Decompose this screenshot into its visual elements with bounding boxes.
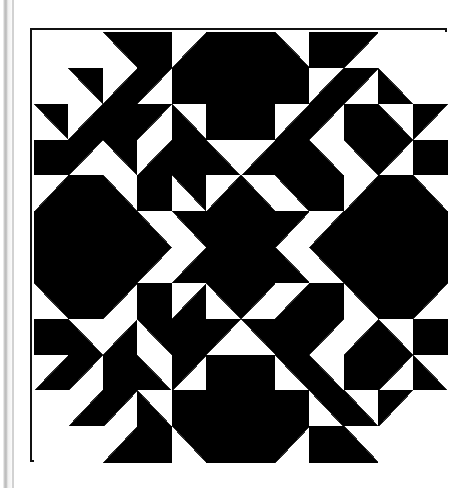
quilt-cell-r3-c10 — [378, 140, 413, 176]
quilt-cell-r7-c1 — [68, 283, 103, 319]
quilt-cell-r9-c6 — [241, 355, 276, 391]
quilt-cell-r3-c9 — [344, 140, 379, 176]
quilt-block-frame — [30, 28, 447, 462]
quilt-cell-r8-c2 — [103, 319, 138, 355]
quilt-cell-r1-c7 — [275, 68, 310, 104]
quilt-cell-r11-c10 — [378, 426, 413, 462]
quilt-cell-r10-c9 — [344, 390, 379, 426]
quilt-cell-r5-c3 — [137, 211, 172, 247]
quilt-cell-r7-c9 — [344, 283, 379, 319]
quilt-cell-r11-c4 — [172, 426, 207, 462]
quilt-cell-r3-c11 — [413, 140, 448, 176]
quilt-cell-r1-c6 — [241, 68, 276, 104]
quilt-cell-r8-c6 — [241, 319, 276, 355]
quilt-cell-r6-c11 — [413, 247, 448, 283]
quilt-cell-r5-c5 — [206, 211, 241, 247]
quilt-cell-r3-c5 — [206, 140, 241, 176]
quilt-cell-r6-c4 — [172, 247, 207, 283]
quilt-cell-r8-c10 — [378, 319, 413, 355]
quilt-cell-r5-c8 — [309, 211, 344, 247]
quilt-cell-r11-c0 — [34, 426, 69, 462]
quilt-cell-r6-c8 — [309, 247, 344, 283]
quilt-cell-r11-c2 — [103, 426, 138, 462]
quilt-cell-r7-c5 — [206, 283, 241, 319]
quilt-cell-r1-c5 — [206, 68, 241, 104]
quilt-cell-r6-c10 — [378, 247, 413, 283]
quilt-cell-r2-c3 — [137, 104, 172, 140]
quilt-cell-r8-c3 — [137, 319, 172, 355]
quilt-cell-r1-c9 — [344, 68, 379, 104]
quilt-cell-r4-c3 — [137, 175, 172, 211]
quilt-cell-r11-c3 — [137, 426, 172, 462]
quilt-cell-r5-c10 — [378, 211, 413, 247]
quilt-cell-r9-c0 — [34, 355, 69, 391]
quilt-cell-r2-c2 — [103, 104, 138, 140]
quilt-cell-r1-c4 — [172, 68, 207, 104]
quilt-cell-r6-c9 — [344, 247, 379, 283]
quilt-cell-r6-c2 — [103, 247, 138, 283]
quilt-cell-r9-c11 — [413, 355, 448, 391]
quilt-cell-r10-c11 — [413, 390, 448, 426]
quilt-cell-r3-c6 — [241, 140, 276, 176]
quilt-cell-r5-c11 — [413, 211, 448, 247]
quilt-cell-r5-c1 — [68, 211, 103, 247]
quilt-cell-r5-c9 — [344, 211, 379, 247]
quilt-cell-r10-c8 — [309, 390, 344, 426]
quilt-cell-r3-c2 — [103, 140, 138, 176]
quilt-cell-r2-c6 — [241, 104, 276, 140]
quilt-cell-r10-c6 — [241, 390, 276, 426]
quilt-cell-r10-c3 — [137, 390, 172, 426]
quilt-cell-r7-c4 — [172, 283, 207, 319]
quilt-cell-r9-c1 — [68, 355, 103, 391]
quilt-cell-r2-c10 — [378, 104, 413, 140]
quilt-cell-r7-c8 — [309, 283, 344, 319]
quilt-cell-r6-c7 — [275, 247, 310, 283]
quilt-cell-r6-c6 — [241, 247, 276, 283]
scanned-page — [0, 0, 474, 488]
quilt-cell-r2-c8 — [309, 104, 344, 140]
quilt-cell-r10-c2 — [103, 390, 138, 426]
quilt-cell-r0-c7 — [275, 32, 310, 68]
quilt-cell-r2-c5 — [206, 104, 241, 140]
quilt-cell-r6-c1 — [68, 247, 103, 283]
quilt-cell-r3-c8 — [309, 140, 344, 176]
quilt-cell-r1-c11 — [413, 68, 448, 104]
quilt-cell-r1-c2 — [103, 68, 138, 104]
quilt-cell-r7-c2 — [103, 283, 138, 319]
quilt-cell-r7-c7 — [275, 283, 310, 319]
quilt-cell-r4-c8 — [309, 175, 344, 211]
quilt-cell-r9-c5 — [206, 355, 241, 391]
quilt-cell-r0-c1 — [68, 32, 103, 68]
quilt-cell-r0-c6 — [241, 32, 276, 68]
quilt-cell-r4-c10 — [378, 175, 413, 211]
quilt-cell-r0-c8 — [309, 32, 344, 68]
quilt-cell-r11-c1 — [68, 426, 103, 462]
quilt-cell-r6-c0 — [34, 247, 69, 283]
quilt-cell-r11-c8 — [309, 426, 344, 462]
quilt-cell-r10-c1 — [68, 390, 103, 426]
quilt-cell-r1-c8 — [309, 68, 344, 104]
quilt-cell-r9-c2 — [103, 355, 138, 391]
quilt-cell-r4-c6 — [241, 175, 276, 211]
quilt-cell-r2-c0 — [34, 104, 69, 140]
quilt-cell-r10-c0 — [34, 390, 69, 426]
quilt-cell-r8-c9 — [344, 319, 379, 355]
quilt-cell-r4-c0 — [34, 175, 69, 211]
quilt-cell-r1-c10 — [378, 68, 413, 104]
quilt-cell-r0-c5 — [206, 32, 241, 68]
quilt-cell-r4-c7 — [275, 175, 310, 211]
quilt-cell-r8-c1 — [68, 319, 103, 355]
quilt-cell-r5-c7 — [275, 211, 310, 247]
quilt-cell-r8-c0 — [34, 319, 69, 355]
quilt-cell-r8-c11 — [413, 319, 448, 355]
quilt-cell-r9-c9 — [344, 355, 379, 391]
quilt-cell-r2-c4 — [172, 104, 207, 140]
quilt-cell-r3-c0 — [34, 140, 69, 176]
quilt-cell-r8-c4 — [172, 319, 207, 355]
quilt-cell-r10-c10 — [378, 390, 413, 426]
quilt-cell-r10-c7 — [275, 390, 310, 426]
quilt-cell-r9-c4 — [172, 355, 207, 391]
quilt-cell-r3-c7 — [275, 140, 310, 176]
quilt-cell-r5-c4 — [172, 211, 207, 247]
quilt-cell-r11-c5 — [206, 426, 241, 462]
